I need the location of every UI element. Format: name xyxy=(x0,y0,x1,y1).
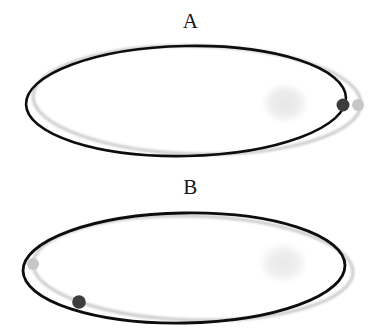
panel-a-diffuse-cloud xyxy=(262,83,308,123)
panel-a-marker-dark xyxy=(337,99,350,112)
panel-a: A xyxy=(0,0,381,167)
panel-a-canvas xyxy=(0,0,381,167)
panel-b: B xyxy=(0,167,381,335)
panel-b-marker-dark xyxy=(72,295,86,309)
panel-b-canvas xyxy=(0,167,381,335)
panel-a-secondary-orbit xyxy=(32,42,363,158)
panel-b-diffuse-cloud xyxy=(259,243,307,283)
figure-root: A xyxy=(0,0,381,335)
panel-a-marker-light xyxy=(352,99,364,111)
panel-b-marker-light xyxy=(27,258,39,270)
